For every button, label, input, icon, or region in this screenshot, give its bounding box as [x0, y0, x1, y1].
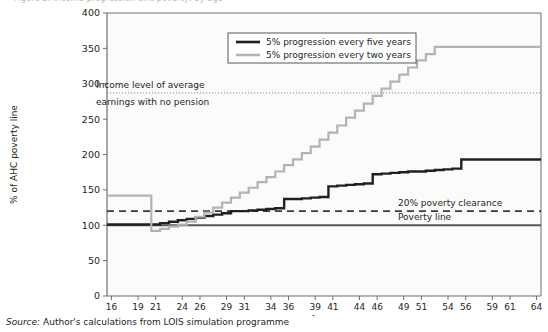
income-level-note-line2: earnings with no pension [96, 97, 209, 107]
x-tick-label: 29 [221, 302, 233, 312]
figure-container: Figure 2: Income progression and poverty… [0, 0, 548, 332]
poverty-line-note: Poverty line [398, 212, 452, 222]
y-tick-label: 200 [82, 149, 100, 160]
x-tick-label: 51 [416, 302, 427, 312]
x-tick-label: 64 [531, 302, 543, 312]
x-tick-label: 49 [398, 302, 410, 312]
x-tick-label: 61 [504, 302, 515, 312]
y-axis-title: % of AHC poverty line [9, 105, 19, 204]
y-tick-label: 350 [82, 43, 100, 54]
income-level-note-line1: Income level of average [96, 80, 205, 90]
x-tick-label: 34 [265, 302, 277, 312]
legend-label-0: 5% progression every five years [266, 37, 411, 47]
x-tick-label: 39 [309, 302, 321, 312]
x-tick-label: 44 [354, 302, 366, 312]
x-tick-label: 31 [239, 302, 250, 312]
x-tick-label: 46 [371, 302, 383, 312]
legend-label-1: 5% progression every two years [266, 50, 411, 60]
x-tick-label: 41 [327, 302, 338, 312]
y-tick-label: 400 [82, 7, 100, 18]
y-tick-label: 150 [82, 184, 100, 195]
x-tick-label: 36 [283, 302, 295, 312]
x-tick-label: 21 [150, 302, 161, 312]
source-text: Author's calculations from LOIS simulati… [43, 317, 289, 327]
x-tick-label: 24 [177, 302, 189, 312]
x-tick-label: 56 [460, 302, 472, 312]
y-tick-label: 50 [88, 255, 100, 266]
clearance-note: 20% poverty clearance [398, 198, 503, 208]
y-tick-label: 250 [82, 114, 100, 125]
y-tick-label: 0 [94, 290, 100, 301]
x-axis-title: Age [310, 314, 328, 316]
x-tick-label: 19 [132, 302, 144, 312]
x-tick-label: 26 [194, 302, 206, 312]
x-tick-label: 54 [442, 302, 454, 312]
chart-canvas: 050100150200250300350400% of AHC poverty… [0, 0, 548, 316]
x-tick-label: 59 [487, 302, 499, 312]
source-label: Source: [6, 317, 40, 327]
x-tick-label: 16 [106, 302, 118, 312]
source-note: Source: Author's calculations from LOIS … [6, 317, 289, 327]
clipped-figure-caption: Figure 2: Income progression and poverty… [14, 0, 534, 3]
y-tick-label: 100 [82, 220, 100, 231]
